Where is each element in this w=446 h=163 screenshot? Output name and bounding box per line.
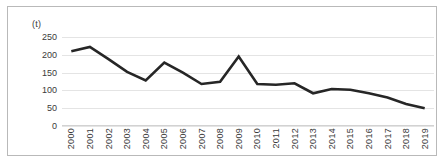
x-axis-tick-label: 2000 (66, 128, 76, 149)
x-axis-tick-label: 2018 (401, 128, 411, 149)
y-axis-tick-label: 100 (42, 85, 57, 95)
x-axis-tick-label: 2019 (420, 128, 430, 149)
x-axis-tick-label: 2007 (197, 128, 207, 149)
chart-frame: (t) 050100150200250 20002001200220032004… (7, 6, 437, 156)
x-axis-tick-label: 2008 (215, 128, 225, 149)
x-axis-tick-label: 2003 (122, 128, 132, 149)
x-axis-tick-labels: 2000200120022003200420052006200720082009… (62, 128, 434, 163)
x-axis-tick-label: 2005 (159, 128, 169, 149)
x-axis-tick-label: 2012 (290, 128, 300, 149)
y-axis-tick-label: 150 (42, 68, 57, 78)
y-axis-tick-label: 0 (52, 121, 57, 131)
y-axis-tick-label: 200 (42, 50, 57, 60)
x-axis-tick-label: 2015 (345, 128, 355, 149)
x-axis-line (62, 125, 434, 126)
y-axis-unit-label: (t) (32, 19, 41, 29)
x-axis-tick-label: 2016 (364, 128, 374, 149)
x-axis-tick-label: 2010 (252, 128, 262, 149)
x-axis-tick-label: 2013 (308, 128, 318, 149)
y-axis-tick-label: 50 (47, 103, 57, 113)
x-axis-tick-label: 2004 (141, 128, 151, 149)
x-axis-tick-label: 2006 (178, 128, 188, 149)
gridline (62, 126, 434, 127)
x-axis-tick-label: 2014 (327, 128, 337, 149)
x-axis-tick-label: 2001 (85, 128, 95, 149)
y-axis-tick-label: 250 (42, 32, 57, 42)
line-series (62, 37, 434, 126)
x-axis-tick-label: 2017 (383, 128, 393, 149)
x-axis-tick-label: 2002 (104, 128, 114, 149)
plot-area: 050100150200250 (62, 37, 434, 126)
x-axis-tick-label: 2009 (234, 128, 244, 149)
x-axis-tick-label: 2011 (271, 128, 281, 149)
